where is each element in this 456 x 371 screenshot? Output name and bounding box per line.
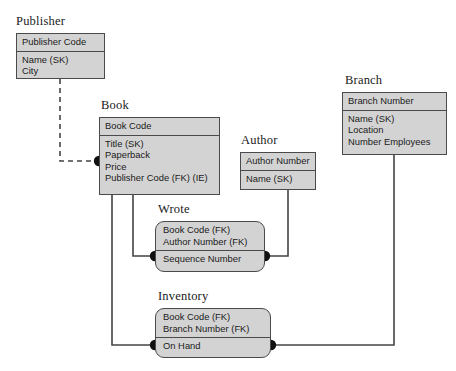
entity-box-branch[interactable]: Branch NumberName (SK)LocationNumber Emp… [342,92,447,155]
key-field: Author Number (FK) [163,236,259,248]
attribute-field: Sequence Number [163,253,259,265]
attribute-section-branch: Name (SK)LocationNumber Employees [343,111,446,151]
attribute-section-publisher: Name (SK)City [17,52,104,80]
attribute-field: Price [105,161,214,173]
primary-key-section-inventory: Book Code (FK)Branch Number (FK) [156,309,270,338]
primary-key-section-author: Author Number [241,153,315,171]
primary-key-section-publisher: Publisher Code [17,34,104,52]
entity-box-author[interactable]: Author NumberName (SK) [240,152,316,190]
attribute-section-wrote: Sequence Number [156,251,264,268]
primary-key-section-book: Book Code [100,118,219,136]
entity-title-wrote: Wrote [158,202,190,217]
entity-title-book: Book [101,98,129,113]
entity-box-inventory[interactable]: Book Code (FK)Branch Number (FK)On Hand [155,308,271,358]
primary-key-section-branch: Branch Number [343,93,446,111]
primary-key-section-wrote: Book Code (FK)Author Number (FK) [156,222,264,251]
entity-title-publisher: Publisher [16,14,65,29]
relationship-line-author-wrote [265,190,288,256]
attribute-field: Number Employees [348,136,441,148]
er-diagram-canvas: PublisherPublisher CodeName (SK)CityBook… [0,0,456,371]
key-field: Book Code [105,120,214,132]
attribute-section-inventory: On Hand [156,338,270,355]
entity-box-publisher[interactable]: Publisher CodeName (SK)City [16,33,105,79]
attribute-field: Location [348,124,441,136]
attribute-field: On Hand [163,340,265,352]
key-field: Author Number [246,155,310,167]
entity-title-author: Author [241,133,278,148]
key-field: Book Code (FK) [163,224,259,236]
attribute-field: Name (SK) [348,113,441,125]
entity-box-wrote[interactable]: Book Code (FK)Author Number (FK)Sequence… [155,221,265,272]
relationship-line-book-wrote [133,195,155,256]
attribute-field: Name (SK) [246,173,310,185]
attribute-field: City [22,65,99,77]
attribute-field: Name (SK) [22,54,99,66]
key-field: Book Code (FK) [163,311,265,323]
attribute-section-book: Title (SK)PaperbackPricePublisher Code (… [100,136,219,187]
key-field: Publisher Code [22,36,99,48]
attribute-field: Publisher Code (FK) (IE) [105,172,214,184]
attribute-field: Title (SK) [105,138,214,150]
key-field: Branch Number [348,95,441,107]
attribute-field: Paperback [105,149,214,161]
attribute-section-author: Name (SK) [241,171,315,188]
relationship-line-publisher-book [60,79,99,161]
entity-title-branch: Branch [345,73,382,88]
entity-box-book[interactable]: Book CodeTitle (SK)PaperbackPricePublish… [99,117,220,195]
entity-title-inventory: Inventory [158,289,208,304]
key-field: Branch Number (FK) [163,323,265,335]
